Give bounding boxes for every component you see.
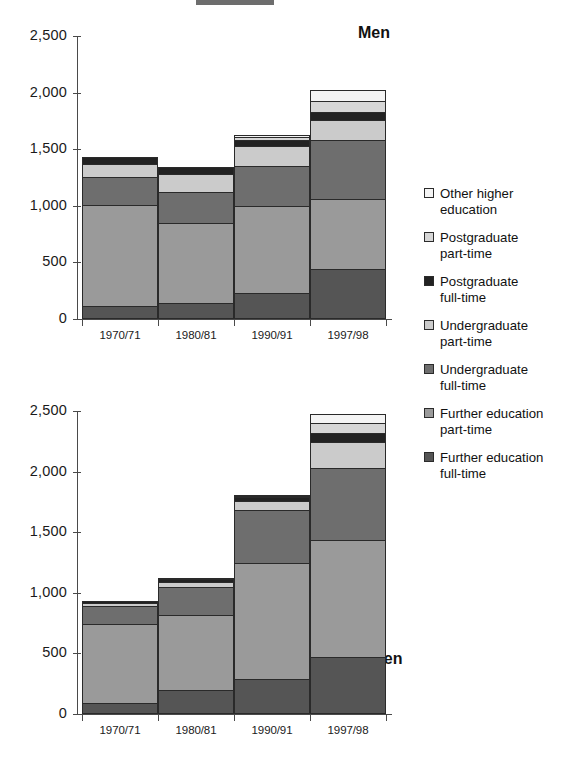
legend-item-postgraduate-part-time[interactable]: Postgraduatepart-time bbox=[424, 230, 582, 261]
y-axis-label-women-2000: 2,000 bbox=[9, 463, 67, 479]
y-axis-label-women-1500: 1,500 bbox=[9, 523, 67, 539]
bar-segment-men-1997-98-other-higher-education bbox=[310, 90, 386, 101]
x-axis-label-women-1: 1980/81 bbox=[158, 724, 234, 736]
y-tick-women-500 bbox=[73, 653, 81, 654]
bar-segment-women-1970-71-further-education-part-time bbox=[82, 624, 158, 703]
chart-panel-women: Women 05001,0001,5002,0002,5001970/71198… bbox=[0, 395, 420, 759]
legend-label-line1: Further education bbox=[440, 450, 543, 465]
bar-segment-men-1970-71-further-education-full-time bbox=[82, 306, 158, 319]
legend-label-other-higher-education: Other highereducation bbox=[440, 186, 582, 217]
x-axis-label-men-1: 1980/81 bbox=[158, 329, 234, 341]
legend-label-line1: Undergraduate bbox=[440, 362, 528, 377]
y-axis-label-men-500: 500 bbox=[9, 253, 67, 269]
legend-swatch-undergraduate-full-time bbox=[424, 364, 434, 374]
bar-segment-men-1980-81-further-education-part-time bbox=[158, 223, 234, 303]
bar-segment-men-1997-98-undergraduate-part-time bbox=[310, 120, 386, 140]
bar-segment-men-1990-91-postgraduate-part-time bbox=[234, 137, 310, 140]
y-tick-women-1000 bbox=[73, 593, 81, 594]
bar-men-1997-98[interactable] bbox=[310, 90, 386, 319]
bar-segment-women-1980-81-postgraduate-part-time bbox=[158, 578, 234, 579]
bar-women-1970-71[interactable] bbox=[82, 601, 158, 714]
bar-women-1990-91[interactable] bbox=[234, 495, 310, 714]
y-axis-line-men bbox=[77, 36, 78, 319]
legend-item-further-education-part-time[interactable]: Further educationpart-time bbox=[424, 406, 582, 437]
legend-label-undergraduate-part-time: Undergraduatepart-time bbox=[440, 318, 582, 349]
bar-segment-men-1990-91-undergraduate-full-time bbox=[234, 166, 310, 205]
legend-swatch-postgraduate-part-time bbox=[424, 232, 434, 242]
bar-segment-men-1970-71-further-education-part-time bbox=[82, 205, 158, 306]
bar-segment-women-1980-81-postgraduate-full-time bbox=[158, 579, 234, 582]
y-axis-label-women-2500: 2,500 bbox=[9, 402, 67, 418]
legend-item-postgraduate-full-time[interactable]: Postgraduatefull-time bbox=[424, 274, 582, 305]
y-tick-men-500 bbox=[73, 262, 81, 263]
bar-segment-women-1997-98-postgraduate-part-time bbox=[310, 423, 386, 433]
bar-segment-women-1990-91-other-higher-education bbox=[234, 495, 310, 496]
x-axis-label-women-2: 1990/91 bbox=[234, 724, 310, 736]
bar-segment-men-1980-81-further-education-full-time bbox=[158, 303, 234, 319]
legend-swatch-further-education-full-time bbox=[424, 452, 434, 462]
bar-segment-women-1997-98-undergraduate-full-time bbox=[310, 468, 386, 540]
bar-segment-women-1997-98-further-education-full-time bbox=[310, 657, 386, 714]
legend-item-undergraduate-part-time[interactable]: Undergraduatepart-time bbox=[424, 318, 582, 349]
y-tick-women-2000 bbox=[73, 472, 81, 473]
bar-men-1990-91[interactable] bbox=[234, 135, 310, 319]
x-axis-label-men-0: 1970/71 bbox=[82, 329, 158, 341]
bar-women-1997-98[interactable] bbox=[310, 414, 386, 714]
bar-segment-men-1990-91-other-higher-education bbox=[234, 135, 310, 137]
legend-item-undergraduate-full-time[interactable]: Undergraduatefull-time bbox=[424, 362, 582, 393]
bar-segment-women-1970-71-further-education-full-time bbox=[82, 703, 158, 714]
chart-legend: Other highereducationPostgraduatepart-ti… bbox=[424, 186, 582, 494]
bar-segment-men-1970-71-undergraduate-part-time bbox=[82, 164, 158, 177]
y-axis-label-men-1000: 1,000 bbox=[9, 197, 67, 213]
y-tick-men-1500 bbox=[73, 149, 81, 150]
bar-segment-women-1997-98-undergraduate-part-time bbox=[310, 442, 386, 468]
bar-segment-men-1990-91-further-education-part-time bbox=[234, 206, 310, 293]
bar-segment-women-1980-81-further-education-full-time bbox=[158, 690, 234, 714]
y-axis-label-women-1000: 1,000 bbox=[9, 584, 67, 600]
bar-segment-men-1997-98-undergraduate-full-time bbox=[310, 140, 386, 199]
bar-segment-men-1990-91-further-education-full-time bbox=[234, 293, 310, 319]
bar-segment-women-1970-71-undergraduate-full-time bbox=[82, 606, 158, 624]
plot-area-men: 05001,0001,5002,0002,5001970/711980/8119… bbox=[0, 0, 420, 355]
legend-item-other-higher-education[interactable]: Other highereducation bbox=[424, 186, 582, 217]
x-tick-men-3 bbox=[310, 320, 311, 326]
y-axis-label-men-2000: 2,000 bbox=[9, 84, 67, 100]
x-tick-men-end bbox=[386, 320, 387, 326]
x-tick-women-1 bbox=[158, 715, 159, 721]
plot-area-women: 05001,0001,5002,0002,5001970/711980/8119… bbox=[0, 395, 420, 759]
y-tick-women-2500 bbox=[73, 411, 81, 412]
legend-label-line2: part-time bbox=[440, 246, 492, 261]
legend-label-line2: part-time bbox=[440, 422, 492, 437]
bar-segment-men-1970-71-undergraduate-full-time bbox=[82, 177, 158, 204]
bar-segment-women-1990-91-undergraduate-full-time bbox=[234, 510, 310, 563]
legend-label-line2: full-time bbox=[440, 290, 486, 305]
legend-label-line1: Undergraduate bbox=[440, 318, 528, 333]
bar-segment-women-1970-71-undergraduate-part-time bbox=[82, 603, 158, 606]
legend-label-line1: Postgraduate bbox=[440, 274, 518, 289]
x-tick-women-2 bbox=[234, 715, 235, 721]
legend-label-line2: full-time bbox=[440, 466, 486, 481]
bar-segment-men-1970-71-postgraduate-full-time bbox=[82, 157, 158, 164]
chart-panel-men: Men 05001,0001,5002,0002,5001970/711980/… bbox=[0, 0, 420, 355]
bar-segment-men-1980-81-undergraduate-part-time bbox=[158, 174, 234, 191]
bar-segment-women-1990-91-undergraduate-part-time bbox=[234, 501, 310, 509]
bar-men-1980-81[interactable] bbox=[158, 167, 234, 319]
legend-item-further-education-full-time[interactable]: Further educationfull-time bbox=[424, 450, 582, 481]
legend-label-line2: part-time bbox=[440, 334, 492, 349]
legend-label-undergraduate-full-time: Undergraduatefull-time bbox=[440, 362, 582, 393]
bar-segment-women-1997-98-further-education-part-time bbox=[310, 540, 386, 657]
legend-label-line1: Further education bbox=[440, 406, 543, 421]
y-tick-men-2500 bbox=[73, 36, 81, 37]
legend-swatch-further-education-part-time bbox=[424, 408, 434, 418]
legend-label-postgraduate-part-time: Postgraduatepart-time bbox=[440, 230, 582, 261]
x-tick-men-2 bbox=[234, 320, 235, 326]
bar-men-1970-71[interactable] bbox=[82, 157, 158, 319]
legend-label-line2: education bbox=[440, 202, 497, 217]
y-axis-label-women-0: 0 bbox=[9, 705, 67, 721]
bar-segment-men-1997-98-further-education-part-time bbox=[310, 199, 386, 270]
bar-women-1980-81[interactable] bbox=[158, 578, 234, 714]
bar-segment-women-1980-81-further-education-part-time bbox=[158, 615, 234, 690]
legend-swatch-undergraduate-part-time bbox=[424, 320, 434, 330]
bar-segment-women-1970-71-postgraduate-full-time bbox=[82, 601, 158, 602]
bar-segment-men-1980-81-postgraduate-full-time bbox=[158, 167, 234, 174]
